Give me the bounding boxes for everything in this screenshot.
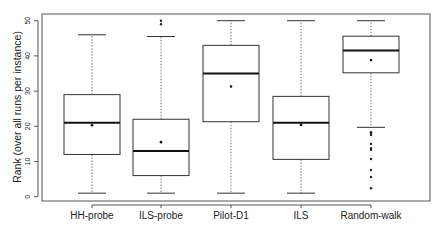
mean-point xyxy=(160,141,163,144)
x-tick-label: Pilot-D1 xyxy=(213,210,249,221)
outlier-point xyxy=(370,158,372,160)
mean-point xyxy=(91,124,94,127)
y-axis: 01020304050 xyxy=(24,17,38,199)
boxplot-chart: 01020304050 HH-probeILS-probePilot-D1ILS… xyxy=(0,0,440,227)
mean-point xyxy=(300,124,303,127)
iqr-box xyxy=(133,119,189,175)
outlier-point xyxy=(370,187,372,189)
outlier-point xyxy=(160,20,162,22)
y-tick-label: 30 xyxy=(24,87,31,95)
box-ils xyxy=(273,21,329,193)
outlier-point xyxy=(370,134,372,136)
y-tick-label: 20 xyxy=(24,122,31,130)
y-tick-label: 40 xyxy=(24,52,31,60)
box-ils-probe xyxy=(133,20,189,194)
x-tick-label: Random-walk xyxy=(340,210,402,221)
x-tick-label: HH-probe xyxy=(70,210,114,221)
y-tick-label: 10 xyxy=(24,158,31,166)
y-tick-label: 0 xyxy=(24,195,31,199)
x-tick-label: ILS xyxy=(293,210,308,221)
outlier-point xyxy=(370,149,372,151)
y-axis-label: Rank (over all runs per instance) xyxy=(11,31,23,183)
outlier-point xyxy=(370,169,372,171)
iqr-box xyxy=(343,36,399,73)
y-tick-label: 50 xyxy=(24,17,31,25)
box-random-walk xyxy=(343,21,399,190)
outlier-point xyxy=(370,176,372,178)
iqr-box xyxy=(203,45,259,121)
box-hh-probe xyxy=(64,35,120,193)
outlier-point xyxy=(160,23,162,25)
iqr-box xyxy=(273,96,329,159)
x-tick-label: ILS-probe xyxy=(139,210,183,221)
box-pilot-d1 xyxy=(203,21,259,193)
boxes xyxy=(64,20,399,194)
outlier-point xyxy=(370,143,372,145)
mean-point xyxy=(230,85,233,88)
mean-point xyxy=(370,59,373,62)
x-axis: HH-probeILS-probePilot-D1ILSRandom-walk xyxy=(70,205,402,221)
